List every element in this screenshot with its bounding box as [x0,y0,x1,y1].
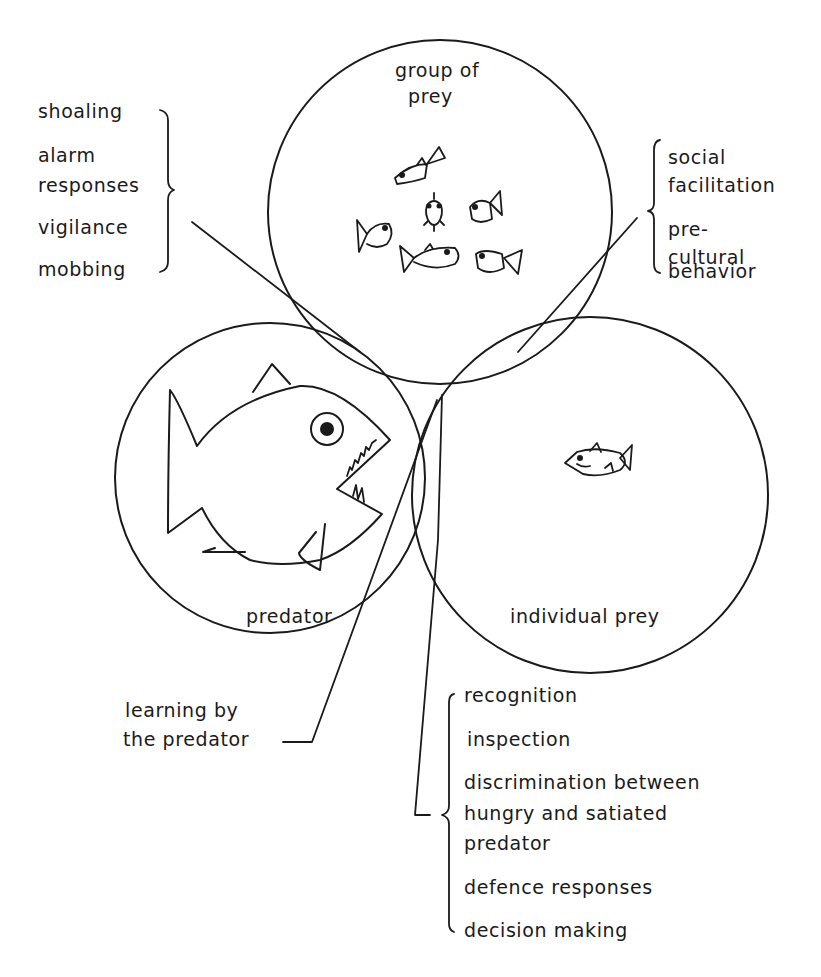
annotation-item: shoaling [38,100,123,122]
connector-line [518,218,637,352]
annotation-item: mobbing [38,258,126,280]
annotation-item: recognition [464,684,578,706]
school-fish [470,191,502,222]
school-fish [395,147,445,184]
predator-circle [115,323,425,633]
annotation-item: alarm [38,144,96,166]
annotation-item: social [668,146,726,168]
school-fish [424,193,444,231]
annotation-item: inspection [467,728,571,750]
annotation-item: predator [464,832,551,854]
annotation-item: hungry and satiated [464,802,668,824]
annotation-item: learning by [125,699,238,721]
prey-fish-icon [565,443,632,475]
group-predator-annotation: shoaling alarm responses vigilance mobbi… [38,100,360,352]
annotation-item: decision making [464,919,628,941]
school-fish [400,244,459,272]
school-fish [476,250,522,274]
annotation-item: defence responses [464,876,653,898]
predator-fish-icon [168,364,390,570]
curly-brace-icon [648,140,660,273]
annotation-item: vigilance [38,216,128,238]
group-label-line2: prey [408,85,453,107]
connector-line [283,400,437,742]
annotation-item-behavior: behavior [668,260,756,282]
curly-brace-icon [160,110,174,272]
predator-label: predator [246,605,333,627]
predator-individual-annotation: recognition inspection discrimination be… [415,395,700,941]
annotation-item: facilitation [668,174,775,196]
school-fish [357,220,392,252]
group-label-line1: group of [395,59,480,81]
curly-brace-icon [442,694,454,932]
individual-prey-label: individual prey [510,605,660,627]
venn-diagram: group of prey predator individual prey s… [0,0,821,977]
annotation-item: discrimination between [464,771,700,793]
annotation-item: pre- [668,218,708,240]
annotation-item: responses [38,174,140,196]
connector-line [415,395,442,815]
annotation-item: the predator [123,728,249,750]
school-of-fish-icon [357,147,522,274]
